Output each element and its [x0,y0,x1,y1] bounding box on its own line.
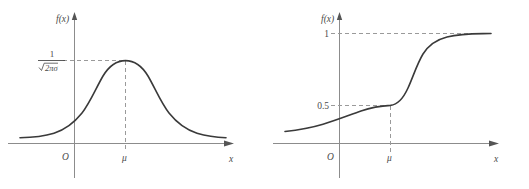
x-axis-label: x [228,154,234,164]
origin-label: O [62,152,69,162]
fraction-denominator: 2πσ [45,63,59,73]
chart-panel-normal-cdf: f(x) x O μ 1 0.5 [265,0,529,189]
mean-label: μ [386,153,392,163]
x-axis-label: x [493,154,499,164]
peak-value-label: 1 2πσ [38,49,65,73]
mid-tick-label: 0.5 [317,101,329,111]
y-axis-arrowhead [72,12,77,20]
fraction-numerator: 1 [50,49,55,59]
y-axis-arrowhead [337,12,342,20]
origin-label: O [327,152,334,162]
y-axis-label: f(x) [321,14,334,25]
y-axis-label: f(x) [56,14,69,25]
mean-label: μ [121,153,127,163]
upper-tick-label: 1 [324,29,329,39]
figure-container: f(x) x O μ 1 2πσ [0,0,529,189]
x-axis-arrowhead [489,141,499,147]
chart-panel-normal-pdf: f(x) x O μ 1 2πσ [0,0,264,189]
x-axis-arrowhead [224,141,234,147]
normal-cdf-curve [285,34,491,132]
